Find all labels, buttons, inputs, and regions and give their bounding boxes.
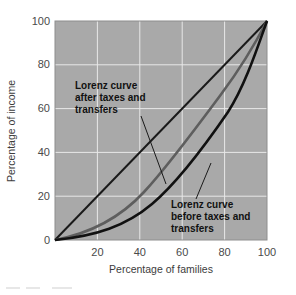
x-tick-100: 100 xyxy=(258,246,276,258)
y-tick-100: 100 xyxy=(32,15,50,27)
x-tick-60: 60 xyxy=(176,246,188,258)
annotation-after-taxes-line-1: Lorenz curve xyxy=(75,80,138,91)
x-tick-40: 40 xyxy=(134,246,146,258)
lorenz-curve-figure: 0 20 40 60 80 100 20 40 60 80 100 Percen… xyxy=(0,0,296,295)
x-axis-title: Percentage of families xyxy=(109,263,213,275)
annotation-before-taxes-line-3: transfers xyxy=(171,223,214,234)
y-axis-tick-labels: 0 20 40 60 80 100 xyxy=(32,15,50,246)
annotation-after-taxes-line-3: transfers xyxy=(75,104,118,115)
y-tick-40: 40 xyxy=(38,146,50,158)
y-tick-60: 60 xyxy=(38,102,50,114)
annotation-before-taxes-line-2: before taxes and xyxy=(171,211,250,222)
x-tick-20: 20 xyxy=(91,246,103,258)
y-tick-20: 20 xyxy=(38,190,50,202)
x-axis-tick-labels: 20 40 60 80 100 xyxy=(91,246,276,258)
lorenz-chart: 0 20 40 60 80 100 20 40 60 80 100 Percen… xyxy=(0,0,296,295)
y-tick-80: 80 xyxy=(38,58,50,70)
y-axis-title: Percentage of income xyxy=(5,80,17,182)
x-tick-80: 80 xyxy=(218,246,230,258)
annotation-before-taxes-line-1: Lorenz curve xyxy=(171,199,234,210)
y-tick-0: 0 xyxy=(44,234,50,246)
annotation-after-taxes-line-2: after taxes and xyxy=(75,92,146,103)
